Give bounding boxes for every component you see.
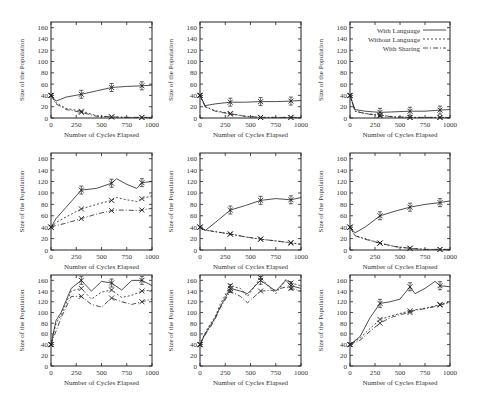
chart-panel-row3-col3: 02040608010012014016002505007501000Numbe… [317, 275, 458, 387]
x-tick-label: 500 [395, 121, 406, 129]
x-tick-label: 250 [220, 369, 231, 377]
x-tick-label: 500 [245, 253, 256, 261]
chart-panel-row2-col1: 02040608010012014016002505007501000Numbe… [18, 153, 160, 271]
y-tick-label: 100 [337, 189, 348, 197]
y-tick-label: 60 [340, 330, 348, 338]
x-tick-label: 750 [122, 369, 133, 377]
y-tick-label: 80 [340, 69, 348, 77]
x-tick-label: 250 [370, 253, 381, 261]
x-tick-label: 0 [198, 369, 202, 377]
y-tick-label: 40 [41, 224, 49, 232]
x-tick-label: 250 [220, 121, 231, 129]
y-tick-label: 140 [187, 167, 198, 175]
x-marker-icon [109, 296, 114, 301]
y-tick-label: 140 [38, 35, 49, 43]
x-tick-label: 500 [96, 253, 107, 261]
x-tick-label: 0 [348, 121, 352, 129]
x-tick-label: 250 [71, 369, 82, 377]
chart-panel-row2-col2: 02040608010012014016002505007501000Numbe… [167, 153, 309, 271]
x-tick-label: 250 [370, 121, 381, 129]
y-axis-label: Size of the Population [167, 289, 175, 352]
y-tick-label: 120 [38, 178, 49, 186]
y-tick-label: 60 [190, 81, 198, 89]
plot-frame [51, 275, 152, 366]
x-marker-icon [79, 286, 84, 291]
x-tick-label: 1000 [145, 253, 160, 261]
x-axis-label: Number of Cycles Elapsed [362, 263, 438, 271]
y-tick-label: 120 [38, 47, 49, 55]
y-tick-label: 120 [187, 298, 198, 306]
y-tick-label: 140 [337, 167, 348, 175]
x-tick-label: 0 [49, 253, 53, 261]
y-tick-label: 140 [38, 167, 49, 175]
x-tick-label: 0 [49, 121, 53, 129]
y-tick-label: 120 [337, 298, 348, 306]
plot-frame [350, 153, 450, 250]
y-tick-label: 100 [38, 189, 49, 197]
series-line-2 [350, 303, 450, 345]
y-tick-label: 0 [344, 115, 348, 123]
legend: With LanguageWithout LanguageWith Sharin… [368, 27, 446, 53]
y-tick-label: 80 [190, 69, 198, 77]
x-tick-label: 1000 [443, 369, 458, 377]
series-line-1 [200, 95, 301, 117]
y-tick-label: 80 [41, 201, 49, 209]
y-tick-label: 120 [337, 178, 348, 186]
y-tick-label: 40 [190, 341, 198, 349]
x-tick-label: 750 [420, 253, 431, 261]
y-tick-label: 140 [187, 288, 198, 296]
y-tick-label: 40 [190, 224, 198, 232]
series-line-1 [200, 227, 301, 244]
x-tick-label: 500 [96, 121, 107, 129]
x-tick-label: 250 [220, 253, 231, 261]
chart-panel-row3-col2: 02040608010012014016002505007501000Numbe… [167, 275, 309, 387]
series-line-2 [350, 95, 450, 117]
y-axis-label: Size of the Population [18, 38, 26, 101]
y-tick-label: 80 [190, 201, 198, 209]
y-tick-label: 80 [41, 320, 49, 328]
x-tick-label: 250 [71, 121, 82, 129]
y-tick-label: 120 [187, 47, 198, 55]
x-tick-label: 250 [71, 253, 82, 261]
y-axis-label: Size of the Population [317, 170, 325, 233]
x-marker-icon [79, 216, 84, 221]
series-line-0 [200, 95, 301, 105]
y-tick-label: 60 [41, 212, 49, 220]
series-line-1 [200, 278, 301, 345]
y-tick-label: 60 [190, 330, 198, 338]
y-tick-label: 100 [187, 58, 198, 66]
x-tick-label: 0 [348, 253, 352, 261]
y-tick-label: 20 [190, 352, 198, 360]
y-tick-label: 0 [45, 363, 49, 371]
y-tick-label: 20 [190, 235, 198, 243]
error-bar [79, 276, 83, 284]
y-tick-label: 80 [190, 320, 198, 328]
x-tick-label: 500 [245, 369, 256, 377]
x-tick-label: 750 [122, 121, 133, 129]
y-tick-label: 0 [194, 363, 198, 371]
x-tick-label: 750 [420, 369, 431, 377]
x-tick-label: 1000 [294, 369, 309, 377]
y-tick-label: 0 [45, 115, 49, 123]
y-tick-label: 60 [190, 212, 198, 220]
y-tick-label: 100 [187, 189, 198, 197]
x-tick-label: 750 [271, 253, 282, 261]
series-line-0 [200, 280, 301, 344]
y-tick-label: 80 [340, 320, 348, 328]
x-tick-label: 500 [395, 253, 406, 261]
y-tick-label: 100 [337, 309, 348, 317]
series-line-1 [350, 95, 450, 117]
y-tick-label: 160 [38, 24, 49, 32]
x-axis-label: Number of Cycles Elapsed [362, 131, 438, 139]
y-tick-label: 160 [38, 155, 49, 163]
x-tick-label: 1000 [294, 253, 309, 261]
x-marker-icon [378, 321, 383, 326]
y-tick-label: 0 [344, 247, 348, 255]
x-axis-label: Number of Cycles Elapsed [213, 131, 289, 139]
x-tick-label: 1000 [443, 253, 458, 261]
error-bar [110, 179, 114, 187]
y-tick-label: 40 [190, 92, 198, 100]
x-marker-icon [79, 206, 84, 211]
series-line-1 [350, 302, 450, 345]
y-axis-label: Size of the Population [317, 289, 325, 352]
